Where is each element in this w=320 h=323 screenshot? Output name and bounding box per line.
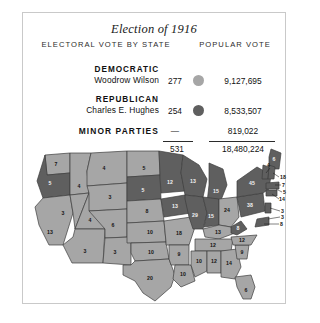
democratic-electoral-votes: 277 [163, 76, 187, 86]
vote-label-IL: 29 [192, 212, 198, 218]
vote-label-IA: 13 [172, 203, 178, 209]
vote-label-TX: 20 [147, 275, 153, 281]
us-electoral-map: 7 5 13 4 3 4 3 4 3 6 3 5 5 8 10 10 20 12… [23, 141, 287, 305]
minor-parties-popular-votes: 819,022 [207, 126, 279, 136]
vote-label-MI: 15 [213, 188, 219, 194]
vote-label-AL: 12 [211, 258, 217, 264]
vote-label-NE: 8 [146, 208, 149, 214]
vote-label-GA: 14 [226, 260, 232, 266]
democratic-names: DEMOCRATIC Woodrow Wilson [31, 65, 159, 86]
state-WI [181, 155, 207, 197]
vote-label-AZ: 3 [84, 248, 87, 254]
vote-label-FL: 6 [245, 287, 248, 293]
vote-label-IN: 15 [208, 213, 214, 219]
vote-label-SC: 9 [241, 249, 244, 255]
vote-label-CA: 13 [47, 229, 53, 235]
state-MT [87, 151, 127, 186]
column-header-electoral-vote: ELECTORAL VOTE BY STATE [31, 40, 181, 49]
vote-label-MD: 8 [280, 221, 283, 227]
vote-label-NY: 45 [249, 180, 255, 186]
vote-label-TN: 12 [210, 242, 216, 248]
vote-label-OK: 10 [148, 249, 154, 255]
state-ND [127, 151, 160, 177]
vote-label-MA: 7 [282, 182, 285, 188]
state-MS [191, 251, 207, 277]
republican-color-dot [193, 105, 204, 116]
vote-label-SD: 5 [142, 187, 145, 193]
state-AZ [63, 229, 105, 263]
democratic-popular-votes: 9,127,695 [207, 76, 279, 86]
vote-label-MO: 18 [176, 230, 182, 236]
vote-label-WV: 8 [237, 225, 240, 231]
election-map-card: Election of 1916 ELECTORAL VOTE BY STATE… [22, 12, 286, 304]
vote-label-ID: 4 [78, 183, 81, 189]
vote-label-KY: 13 [215, 229, 221, 235]
democratic-color-dot [193, 75, 204, 86]
vote-label-KS: 10 [147, 229, 153, 235]
minor-parties-electoral-votes: — [163, 126, 187, 136]
republican-party-label: REPUBLICAN [31, 95, 159, 105]
page-title: Election of 1916 [23, 22, 285, 37]
vote-label-MS: 10 [196, 258, 202, 264]
vote-label-VT: 4 [267, 162, 270, 168]
state-CA [35, 195, 73, 245]
minor-parties-label: MINOR PARTIES [31, 126, 159, 136]
vote-label-DE: 3 [281, 214, 284, 220]
republican-popular-votes: 8,533,507 [207, 106, 279, 116]
vote-label-NV: 3 [62, 210, 65, 216]
vote-label-PA: 38 [247, 202, 253, 208]
republican-candidate-name: Charles E. Hughes [31, 105, 159, 116]
vote-label-NC: 12 [239, 237, 245, 243]
state-WY [87, 183, 127, 211]
leader-line-NJ [270, 208, 280, 211]
state-MA [266, 182, 279, 189]
republican-electoral-votes: 254 [163, 106, 187, 116]
vote-label-CO: 6 [112, 222, 115, 228]
vote-label-NM: 3 [114, 249, 117, 255]
democratic-candidate-name: Woodrow Wilson [31, 75, 159, 86]
column-header-popular-vote: POPULAR VOTE [191, 40, 279, 49]
state-DE-MD [255, 217, 269, 227]
vote-label-NH: 18 [280, 174, 286, 180]
leader-line-DE [268, 217, 280, 219]
vote-label-MT: 4 [103, 165, 106, 171]
vote-label-ME: 6 [273, 156, 276, 162]
vote-label-UT: 4 [89, 217, 92, 223]
vote-label-MN: 12 [167, 179, 173, 185]
vote-label-OH: 24 [224, 207, 230, 213]
vote-label-WY: 3 [109, 194, 112, 200]
state-WA [45, 153, 70, 175]
vote-label-RI: 5 [283, 189, 286, 195]
party-row-republican: REPUBLICAN Charles E. Hughes 254 8,533,5… [23, 95, 285, 117]
vote-label-LA: 10 [180, 271, 186, 277]
vote-label-CT: 14 [279, 196, 285, 202]
vote-label-OR: 5 [49, 180, 52, 186]
party-row-democratic: DEMOCRATIC Woodrow Wilson 277 9,127,695 [23, 65, 285, 87]
vote-label-AR: 9 [178, 251, 181, 257]
vote-label-ND: 5 [143, 165, 146, 171]
vote-label-WA: 7 [55, 161, 58, 167]
vote-label-WI: 13 [190, 178, 196, 184]
republican-names: REPUBLICAN Charles E. Hughes [31, 95, 159, 116]
democratic-party-label: DEMOCRATIC [31, 65, 159, 75]
state-CT-RI [266, 190, 277, 196]
